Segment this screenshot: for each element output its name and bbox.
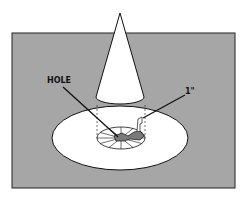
diagram-canvas	[0, 0, 246, 203]
measure-label: 1"	[185, 87, 195, 96]
hole-label: HOLE	[47, 76, 71, 85]
